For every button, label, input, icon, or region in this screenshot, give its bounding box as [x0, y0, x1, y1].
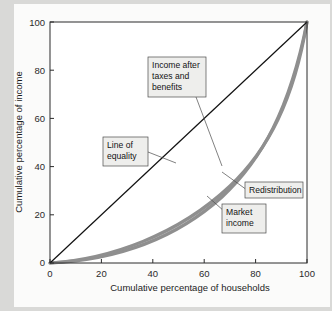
callout-market-income[interactable]: Market income — [222, 204, 266, 233]
x-tick-label-40: 40 — [148, 268, 159, 279]
y-tick-label-80: 80 — [34, 65, 45, 76]
y-tick-label-20: 20 — [34, 209, 45, 220]
y-tick-label-60: 60 — [34, 113, 45, 124]
lorenz-curve-figure: 0 20 40 60 80 100 0 20 40 60 80 100 Cumu… — [0, 0, 332, 311]
x-tick-label-20: 20 — [96, 268, 107, 279]
callout-line-of-equality[interactable]: Line of equality — [103, 137, 148, 166]
x-tick-label-80: 80 — [250, 268, 261, 279]
callout-income-after-taxes[interactable]: Income after taxes and benefits — [148, 57, 206, 97]
callout-line-of-equality-line1: Line of — [107, 140, 133, 150]
callout-income-after-taxes-line3: benefits — [152, 82, 182, 92]
y-tick-label-100: 100 — [29, 17, 45, 28]
x-tick-label-0: 0 — [47, 268, 52, 279]
callout-redistribution[interactable]: Redistribution — [245, 182, 303, 198]
callout-market-income-line2: income — [226, 218, 254, 228]
callout-redistribution-line1: Redistribution — [249, 185, 302, 195]
x-tick-label-60: 60 — [199, 268, 210, 279]
callout-income-after-taxes-line1: Income after — [152, 60, 200, 70]
x-axis-title: Cumulative percentage of households — [110, 282, 270, 293]
y-tick-label-40: 40 — [34, 161, 45, 172]
y-axis-title: Cumulative percentage of income — [13, 71, 24, 213]
callout-line-of-equality-line2: equality — [107, 151, 137, 161]
x-tick-label-100: 100 — [299, 268, 315, 279]
callout-income-after-taxes-line2: taxes and — [152, 71, 189, 81]
callout-market-income-line1: Market — [226, 207, 253, 217]
y-tick-label-0: 0 — [40, 257, 45, 268]
